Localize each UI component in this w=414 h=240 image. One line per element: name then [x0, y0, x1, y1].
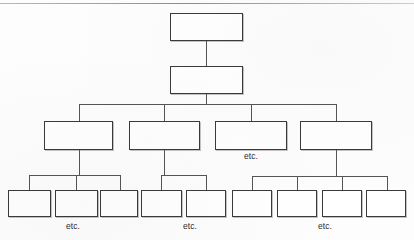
node-box-r4c3[interactable]	[100, 190, 138, 217]
node-box-r4c7[interactable]	[277, 190, 317, 217]
etc-branch2-label: etc.	[183, 221, 197, 231]
connector-leaf-drop-9	[387, 176, 388, 190]
node-box-r2c1[interactable]	[170, 66, 243, 94]
connector-branch-bus-1	[29, 175, 120, 176]
connector-leaf-drop-7	[252, 176, 253, 190]
connector-branch-stub-3	[336, 150, 337, 176]
node-box-r4c5[interactable]	[186, 190, 226, 217]
node-box-r3c3[interactable]	[215, 121, 287, 150]
connector-level3-drop-3	[251, 104, 252, 121]
node-box-r4c1[interactable]	[8, 190, 51, 217]
connector-level3-drop-2	[164, 104, 165, 121]
node-box-r4c6[interactable]	[232, 190, 272, 217]
node-box-r4c9[interactable]	[366, 190, 406, 217]
node-box-r3c4[interactable]	[300, 121, 372, 150]
connector-leaf-drop-3	[120, 175, 121, 190]
connector-level3-bus	[79, 104, 336, 105]
connector-second-stub	[206, 94, 207, 104]
etc-level3-label: etc.	[244, 151, 258, 161]
etc-branch1-label: etc.	[66, 221, 80, 231]
node-box-r4c2[interactable]	[55, 190, 98, 217]
node-box-r3c1[interactable]	[44, 121, 113, 150]
connector-branch-bus-2	[161, 175, 206, 176]
node-box-r4c8[interactable]	[322, 190, 362, 217]
connector-branch-stub-1	[79, 150, 80, 175]
etc-branch3-label: etc.	[318, 221, 332, 231]
org-chart-diagram: etc.etc.etc.etc.	[0, 0, 414, 240]
connector-leaf-drop-6	[297, 176, 298, 190]
connector-root-to-second	[206, 41, 207, 66]
connector-branch-bus-3	[252, 176, 387, 177]
connector-leaf-drop-2	[76, 175, 77, 190]
connector-leaf-drop-5	[206, 175, 207, 190]
connector-leaf-drop-8	[342, 176, 343, 190]
connector-branch-stub-2	[164, 150, 165, 175]
node-box-r1c1[interactable]	[170, 13, 243, 41]
connector-level3-drop-4	[336, 104, 337, 121]
connector-leaf-drop-4	[161, 175, 162, 190]
connector-leaf-drop-1	[29, 175, 30, 190]
top-divider-rule	[0, 3, 414, 4]
node-box-r3c2[interactable]	[129, 121, 200, 150]
connector-level3-drop-1	[79, 104, 80, 121]
node-box-r4c4[interactable]	[141, 190, 182, 217]
